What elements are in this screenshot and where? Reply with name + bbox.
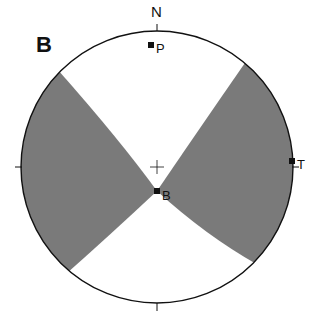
compressional-quadrant-west (0, 70, 157, 274)
panel-label: B (36, 32, 52, 58)
north-label: N (151, 3, 162, 20)
t-label: T (297, 157, 305, 172)
b-axis-marker (154, 188, 160, 194)
p-axis-marker (148, 42, 154, 48)
t-axis-marker (289, 158, 295, 164)
compressional-quadrant-east (157, 60, 312, 265)
p-label: P (156, 41, 165, 56)
b-label: B (162, 188, 171, 203)
